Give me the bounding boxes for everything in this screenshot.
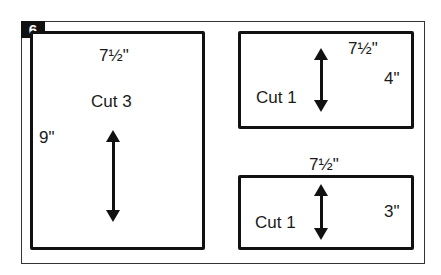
grain-arrow-icon xyxy=(106,130,120,222)
grain-arrow-icon xyxy=(314,48,328,112)
piece-medium-cut-label: Cut 1 xyxy=(256,89,297,106)
grain-arrow-icon xyxy=(314,184,328,240)
piece-medium-height-label: 4" xyxy=(384,70,400,87)
piece-small-width-label: 7½" xyxy=(309,156,339,173)
piece-small-cut-label: Cut 1 xyxy=(255,214,296,231)
piece-medium-width-label: 7½" xyxy=(348,40,378,57)
piece-large-height-label: 9" xyxy=(39,129,55,146)
piece-large-width-label: 7½" xyxy=(99,47,129,64)
piece-small-height-label: 3" xyxy=(384,203,400,220)
piece-large-cut-label: Cut 3 xyxy=(91,93,132,110)
